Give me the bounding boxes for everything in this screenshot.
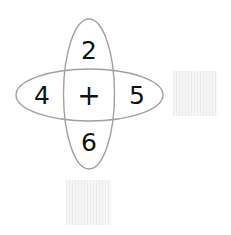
answer-box-right[interactable] bbox=[173, 71, 217, 116]
left-number: 4 bbox=[27, 83, 57, 108]
right-number: 5 bbox=[122, 83, 152, 108]
ellipse-diagram bbox=[0, 0, 231, 235]
center-operator: + bbox=[74, 82, 104, 110]
bottom-number: 6 bbox=[74, 130, 104, 155]
top-number: 2 bbox=[74, 38, 104, 63]
answer-box-bottom[interactable] bbox=[66, 180, 111, 225]
